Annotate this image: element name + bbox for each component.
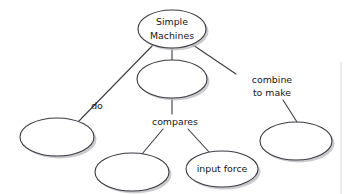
node-blank-left[interactable] [20,118,94,156]
edge-compares-to-bottom-center [142,129,163,154]
node-simple-machines-label-line2: Machines [150,30,194,41]
edge-compares-to-input-force [188,129,209,152]
node-blank-bottom-center-ellipse[interactable] [95,153,169,191]
node-blank-center[interactable] [137,60,207,98]
node-blank-left-ellipse[interactable] [20,118,94,156]
concept-map-diagram: Simple Machines input force [0,0,348,194]
concept-map-canvas: Simple Machines input force [0,0,348,194]
link-label-compares: compares [152,116,198,127]
node-blank-bottom-center[interactable] [95,153,169,191]
link-label-combine-to-make-line2: to make [253,87,291,98]
node-input-force-label: input force [197,163,248,174]
node-blank-center-ellipse[interactable] [137,60,207,98]
node-blank-right-ellipse[interactable] [260,122,332,160]
node-blank-right[interactable] [260,122,332,160]
node-simple-machines[interactable]: Simple Machines [138,10,206,48]
edge-simple-to-right-lower [283,100,297,122]
node-group: Simple Machines input force [20,10,332,191]
link-label-combine-to-make-line1: combine [252,74,293,85]
node-simple-machines-label-line1: Simple [156,16,188,27]
node-input-force[interactable]: input force [186,151,258,187]
link-label-do: do [91,100,103,111]
